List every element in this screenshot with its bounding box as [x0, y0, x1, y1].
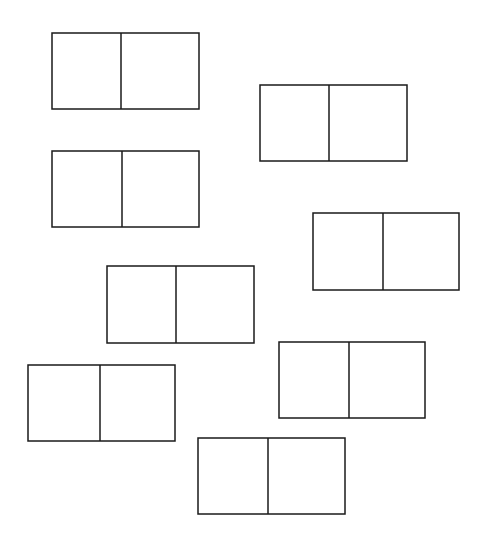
domino-tile	[198, 438, 345, 514]
domino-outline	[260, 85, 407, 161]
domino-tile	[313, 213, 459, 290]
domino-tile	[52, 151, 199, 227]
domino-outline	[52, 151, 199, 227]
domino-outline	[279, 342, 425, 418]
domino-diagram	[0, 0, 483, 546]
domino-outline	[52, 33, 199, 109]
domino-tile	[28, 365, 175, 441]
domino-tile	[107, 266, 254, 343]
domino-outline	[313, 213, 459, 290]
domino-tile	[52, 33, 199, 109]
domino-tile	[260, 85, 407, 161]
domino-tile	[279, 342, 425, 418]
domino-outline	[198, 438, 345, 514]
domino-outline	[28, 365, 175, 441]
domino-outline	[107, 266, 254, 343]
